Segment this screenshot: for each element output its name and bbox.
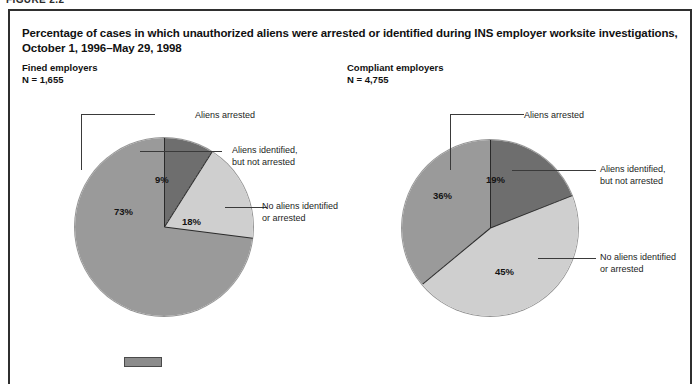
pie-spoke-fined-2 [164, 227, 252, 239]
callout-compliant-identified: Aliens identified, but not arrested [600, 164, 666, 187]
leader-line-compliant-aliens-arrested-vertical [450, 114, 451, 170]
pie-spoke-compliant-1 [490, 195, 572, 228]
leader-line-compliant-aliens-arrested-horizontal [450, 114, 524, 115]
legend-swatch [124, 357, 162, 367]
figure-title: Percentage of cases in which unauthorize… [22, 26, 662, 56]
leader-line-fined-none [225, 207, 267, 208]
pie-value-fined-identified: 18% [182, 216, 201, 227]
callout-compliant-identified-line-1: Aliens identified, [600, 164, 666, 176]
panel-title-compliant: Compliant employers [347, 62, 444, 74]
leader-line-fined-identified [140, 151, 222, 152]
pie-value-compliant-aliens-arrested: 19% [486, 174, 505, 185]
callout-fined-none: No aliens identified or arrested [262, 201, 338, 224]
callout-compliant-aliens-arrested: Aliens arrested [524, 110, 584, 122]
callout-fined-identified-line-2: but not arrested [232, 157, 298, 169]
pie-value-compliant-identified: 45% [495, 266, 514, 277]
pie-spoke-compliant-2 [422, 228, 490, 285]
leader-line-fined-aliens-arrested-vertical [81, 114, 82, 170]
panel-title-fined: Fined employers [22, 62, 98, 74]
pie-chart-fined-employers: 9% 18% 73% [10, 118, 350, 333]
callout-fined-aliens-arrested: Aliens arrested [195, 110, 255, 122]
panel-n-fined: N = 1,655 [22, 74, 98, 86]
pie-graphic-fined [75, 138, 253, 316]
pie-graphic-compliant [402, 140, 578, 316]
callout-compliant-none-line-2: or arrested [600, 264, 676, 276]
callout-compliant-none: No aliens identified or arrested [600, 252, 676, 275]
figure-title-line-2: October 1, 1996–May 29, 1998 [22, 41, 662, 56]
pie-value-compliant-none: 36% [433, 190, 452, 201]
panel-heading-fined-employers: Fined employers N = 1,655 [22, 62, 98, 86]
pie-value-fined-aliens-arrested: 9% [155, 174, 169, 185]
callout-compliant-identified-line-2: but not arrested [600, 176, 666, 188]
leader-line-fined-aliens-arrested-horizontal [81, 114, 155, 115]
callout-compliant-none-line-1: No aliens identified [600, 252, 676, 264]
figure-title-line-1: Percentage of cases in which unauthorize… [22, 26, 662, 41]
panel-n-compliant: N = 4,755 [347, 74, 444, 86]
pie-value-fined-none: 73% [114, 206, 133, 217]
callout-fined-identified: Aliens identified, but not arrested [232, 145, 298, 168]
leader-line-compliant-none [538, 258, 596, 259]
pie-chart-compliant-employers: 19% 45% 36% [340, 118, 680, 333]
callout-fined-none-line-2: or arrested [262, 213, 338, 225]
callout-fined-none-line-1: No aliens identified [262, 201, 338, 213]
leader-line-compliant-identified [512, 170, 596, 171]
figure-number: FIGURE 2.2 [6, 0, 64, 5]
callout-fined-identified-line-1: Aliens identified, [232, 145, 298, 157]
panel-heading-compliant-employers: Compliant employers N = 4,755 [347, 62, 444, 86]
